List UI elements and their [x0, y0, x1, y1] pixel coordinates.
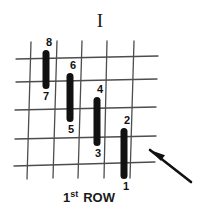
bar-8-7-label-top: 8 — [42, 37, 56, 48]
bar-4-3-label-top: 4 — [93, 84, 107, 95]
grid-line-horizontal-1 — [16, 79, 157, 82]
caption-word: ROW — [83, 190, 115, 205]
figure-container: I 87654321 1stROW — [0, 0, 200, 224]
grid-line-horizontal-0 — [16, 56, 158, 59]
pointer-arrow — [150, 150, 191, 182]
grid-line-horizontal-3 — [15, 136, 156, 139]
grid-line-vertical-0 — [27, 42, 31, 179]
grid-line-horizontal-2 — [15, 107, 156, 110]
bar-6-5-label-bottom: 5 — [64, 124, 78, 135]
grid-line-horizontal-4 — [14, 162, 155, 166]
caption-ordinal-suffix: st — [70, 189, 78, 199]
bar-marks — [46, 54, 124, 176]
grid-lines — [14, 41, 158, 179]
grid-line-vertical-4 — [130, 41, 134, 178]
figure-caption: 1stROW — [14, 190, 164, 205]
bar-6-5-label-top: 6 — [66, 60, 80, 71]
bar-2-1-label-top: 2 — [120, 115, 134, 126]
bar-4-3-label-bottom: 3 — [91, 148, 105, 159]
bar-8-7-label-bottom: 7 — [39, 91, 53, 102]
